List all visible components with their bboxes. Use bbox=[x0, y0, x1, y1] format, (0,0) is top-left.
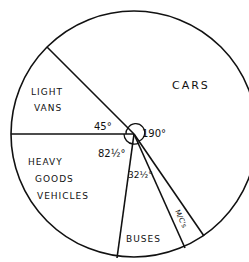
angle-label-light-vans: 45° bbox=[94, 121, 112, 132]
angle-label-hgv: 82½° bbox=[98, 148, 125, 159]
pie-chart: CARS LIGHT VANS HEAVY GOODS VEHICLES BUS… bbox=[0, 0, 249, 262]
label-buses: BUSES bbox=[126, 234, 161, 244]
boundary-mcs-cars bbox=[134, 134, 204, 236]
arc-buses bbox=[133, 143, 139, 144]
arc-light-vans bbox=[126, 128, 128, 134]
label-light-vans-line1: LIGHT bbox=[31, 87, 63, 97]
angle-label-buses: 32½° bbox=[128, 170, 153, 180]
label-cars: CARS bbox=[172, 79, 210, 92]
arc-hgv bbox=[124, 134, 133, 144]
label-hgv-line3: VEHICLES bbox=[37, 191, 89, 201]
label-hgv-line1: HEAVY bbox=[28, 157, 63, 167]
label-light-vans-line2: VANS bbox=[34, 103, 62, 113]
boundary-buses-mcs bbox=[134, 134, 185, 248]
angle-label-cars: 190° bbox=[142, 128, 166, 139]
label-hgv-line2: GOODS bbox=[35, 174, 74, 184]
